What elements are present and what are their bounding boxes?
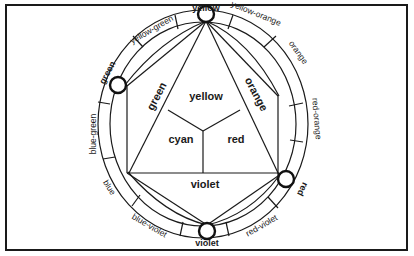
region-label-cyan: cyan [168,133,193,145]
ring-label-blue-green: blue-green [88,113,98,154]
ring-label-blue: blue [101,178,118,197]
ring-dividers [98,15,303,236]
diagram-frame [6,5,407,250]
outer-ring-edge [98,10,308,238]
region-label-violet: violet [191,178,220,190]
ring-label-yellow: yellow [192,3,221,13]
ring-label-blue-violet: blue-violet [130,211,169,239]
ring-label-orange: orange [287,39,311,67]
color-wheel-diagram: yellow yellow-orange orange red-orange r… [0,0,414,256]
marker-green [110,77,126,93]
ring-label-violet: violet [195,238,219,248]
inner-hexagon [125,21,279,225]
marker-violet [199,223,215,239]
inner-ring-edge [110,22,296,226]
region-label-green: green [144,80,169,112]
ring-label-red-orange: red-orange [310,98,324,141]
ring-label-red: red [295,181,310,198]
marker-red [278,171,294,187]
ring-label-red-violet: red-violet [244,212,280,238]
region-label-red: red [227,133,244,145]
region-label-yellow: yellow [189,90,223,102]
